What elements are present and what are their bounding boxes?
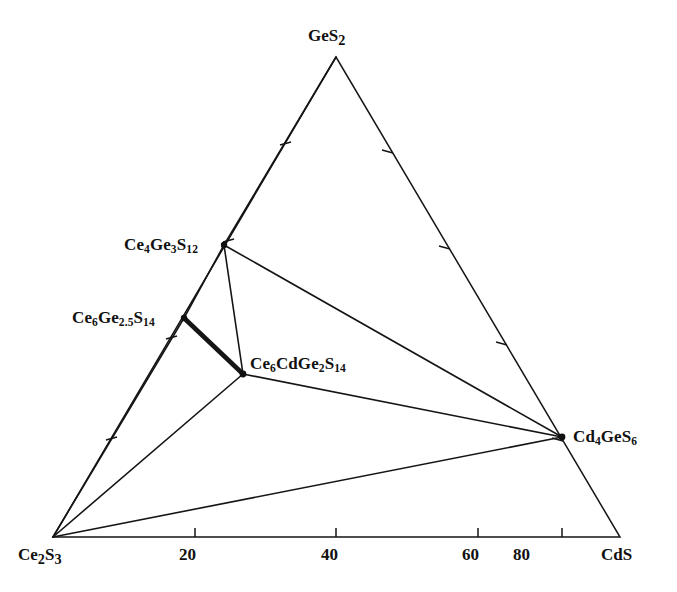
compound-label-ce4ge3s12: Ce4Ge3S12 — [124, 236, 198, 253]
node-ce6ge25s14 — [181, 315, 187, 321]
vertex-label-cds-text: CdS — [601, 545, 632, 564]
compound-label-cd4ges6: Cd4GeS6 — [573, 428, 637, 445]
compound-label-ce6ge25s14-p1: Ce — [72, 308, 92, 327]
axis-tick-label-40: 40 — [321, 545, 338, 565]
compound-label-ce6ge25s14-p2: 6 — [92, 316, 98, 328]
tie-line-ce6ge25s14-ce6cdge2s14 — [184, 318, 243, 374]
vertex-label-ce2s3: Ce2S3 — [18, 545, 61, 568]
tie-line-ges2-ce4ge3s12 — [224, 57, 336, 245]
axis-tick-label-20: 20 — [179, 545, 196, 565]
tie-line-ce4ge3s12-cd4ges6 — [224, 245, 562, 437]
axis-tick-label-60: 60 — [462, 545, 479, 565]
compound-label-ce6ge25s14-p4: 2.5 — [119, 316, 134, 328]
node-cd4ges6 — [559, 434, 566, 441]
node-ce6cdge2s14 — [240, 371, 247, 378]
compound-label-cd4ges6-p2: 4 — [595, 435, 601, 447]
tie-line-ce6cdge2s14-ce2s3 — [53, 374, 243, 537]
compound-label-ce4ge3s12-p3: Ge — [150, 235, 171, 254]
compound-label-ce6cdge2s14-p1: Ce — [250, 354, 270, 373]
compound-label-ce4ge3s12-p2: 4 — [144, 243, 150, 255]
tie-line-ce4ge3s12-ce6cdge2s14 — [224, 245, 243, 374]
compound-label-ce6cdge2s14-p5: S — [325, 354, 335, 373]
tie-line-ce4ge3s12-ce6ge25s14 — [184, 245, 224, 318]
compound-label-ce4ge3s12-p1: Ce — [124, 235, 144, 254]
vertex-label-cds: CdS — [601, 545, 632, 565]
tie-line-ce2s3-cd4ges6 — [53, 437, 562, 537]
compound-label-ce6cdge2s14-p3: CdGe — [276, 354, 319, 373]
ternary-phase-diagram: GeS2 Ce2S3 CdS 20 40 60 80 Ce4Ge3S12 Ce6… — [0, 0, 677, 592]
vertex-label-ges2-text: GeS — [308, 26, 338, 45]
compound-label-ce6cdge2s14-p2: 6 — [270, 362, 276, 374]
compound-label-ce6cdge2s14-p6: 14 — [334, 362, 346, 374]
ternary-diagram-canvas — [0, 0, 677, 592]
node-ce4ge3s12 — [221, 242, 227, 248]
tie-line-network — [53, 57, 562, 537]
compound-label-cd4ges6-p4: 6 — [631, 435, 637, 447]
vertex-label-ce2s3-sub2: 3 — [54, 551, 61, 567]
bottom-axis-ticks — [195, 528, 562, 537]
compound-label-ce4ge3s12-p5: S — [177, 235, 187, 254]
compound-label-ce6ge25s14-p6: 14 — [143, 316, 155, 328]
vertex-label-ce2s3-s: S — [45, 545, 54, 564]
compound-label-ce6ge25s14-p3: Ge — [98, 308, 119, 327]
compound-label-ce6cdge2s14-p4: 2 — [319, 362, 325, 374]
tie-line-ce6ge25s14-ce2s3 — [53, 318, 184, 537]
compound-label-ce6cdge2s14: Ce6CdGe2S14 — [250, 355, 346, 372]
vertex-label-ges2-sub: 2 — [338, 32, 345, 48]
compound-label-ce4ge3s12-p6: 12 — [186, 243, 198, 255]
axis-tick-label-80: 80 — [513, 545, 530, 565]
tie-line-ce6cdge2s14-cd4ges6 — [243, 374, 562, 437]
compound-label-cd4ges6-p1: Cd — [573, 427, 595, 446]
vertex-label-ges2: GeS2 — [308, 26, 345, 49]
compound-label-ce6ge25s14: Ce6Ge2.5S14 — [72, 309, 155, 326]
vertex-label-ce2s3-sub1: 2 — [38, 551, 45, 567]
vertex-label-ce2s3-ce: Ce — [18, 545, 38, 564]
compound-label-cd4ges6-p3: GeS — [601, 427, 632, 446]
compound-label-ce4ge3s12-p4: 3 — [171, 243, 177, 255]
compound-label-ce6ge25s14-p5: S — [134, 308, 144, 327]
right-axis-ticks — [382, 150, 563, 441]
